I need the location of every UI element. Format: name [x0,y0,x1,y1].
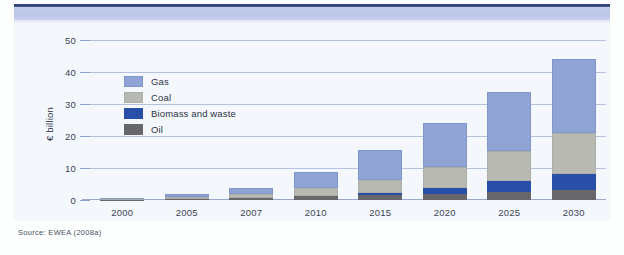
bar-2030[interactable] [552,59,596,200]
y-tick-label-40: 40 [65,67,76,78]
bar-slot-2025: 2025 [477,40,542,200]
bar-segment-gas-2030 [552,59,596,133]
bar-segment-gas-2020 [423,123,467,167]
bar-2020[interactable] [423,123,467,200]
bar-segment-coal-2020 [423,167,467,188]
chart-panel: € billion 01020304050 200020052007201020… [14,23,610,221]
bar-segment-oil-2030 [552,190,596,200]
legend-label-biomass: Biomass and waste [151,108,236,119]
chart-legend: Gas Coal Biomass and waste Oil [124,75,236,136]
bar-segment-coal-2025 [487,151,531,181]
legend-swatch-oil-icon [124,124,143,135]
legend-label-gas: Gas [151,76,169,87]
x-tick-label-2007: 2007 [240,207,262,218]
y-tick-20 [80,136,90,137]
source-note: Source: EWEA (2008a) [18,228,102,237]
bar-slot-2020: 2020 [413,40,478,200]
bar-segment-oil-2025 [487,192,531,200]
bar-segment-gas-2015 [358,150,402,179]
x-tick-label-2015: 2015 [369,207,391,218]
legend-label-coal: Coal [151,92,171,103]
bar-segment-oil-2010 [294,196,338,200]
y-tick-label-10: 10 [65,163,76,174]
y-tick-0 [80,200,90,201]
x-tick-label-2025: 2025 [498,207,520,218]
x-tick-label-2020: 2020 [434,207,456,218]
x-tick-label-2030: 2030 [563,207,585,218]
legend-swatch-coal-icon [124,92,143,103]
legend-swatch-gas-icon [124,76,143,87]
y-tick-label-0: 0 [71,195,76,206]
bar-slot-2010: 2010 [284,40,349,200]
bar-2000[interactable] [100,198,144,200]
legend-item-oil[interactable]: Oil [124,123,236,136]
bar-segment-oil-2020 [423,194,467,200]
bar-segment-coal-2010 [294,188,338,196]
y-axis-title: € billion [44,107,55,141]
y-tick-label-50: 50 [65,35,76,46]
bar-slot-2030: 2030 [542,40,607,200]
x-tick-label-2005: 2005 [176,207,198,218]
bar-slot-2015: 2015 [348,40,413,200]
y-tick-label-30: 30 [65,99,76,110]
bar-segment-coal-2015 [358,180,402,193]
y-tick-50 [80,40,90,41]
bar-segment-gas-2025 [487,92,531,152]
bar-segment-bio-2025 [487,181,531,192]
legend-swatch-biomass-icon [124,108,143,119]
bar-2007[interactable] [229,188,273,200]
legend-item-biomass[interactable]: Biomass and waste [124,107,236,120]
legend-item-coal[interactable]: Coal [124,91,236,104]
bar-2005[interactable] [165,194,209,200]
x-tick-label-2010: 2010 [305,207,327,218]
y-tick-label-20: 20 [65,131,76,142]
bar-segment-coal-2030 [552,133,596,174]
y-tick-10 [80,168,90,169]
x-tick-label-2000: 2000 [111,207,133,218]
bar-segment-oil-2015 [358,195,402,200]
bar-2015[interactable] [358,150,402,200]
bar-segment-oil-2007 [229,198,273,200]
legend-label-oil: Oil [151,124,163,135]
bar-2025[interactable] [487,92,531,200]
figure-container: € billion 01020304050 200020052007201020… [0,0,624,255]
header-band [14,7,610,20]
bar-segment-gas-2010 [294,172,338,188]
y-tick-30 [80,104,90,105]
bar-segment-oil-2005 [165,199,209,200]
bar-segment-bio-2030 [552,174,596,190]
bar-2010[interactable] [294,172,338,200]
legend-item-gas[interactable]: Gas [124,75,236,88]
y-tick-40 [80,72,90,73]
